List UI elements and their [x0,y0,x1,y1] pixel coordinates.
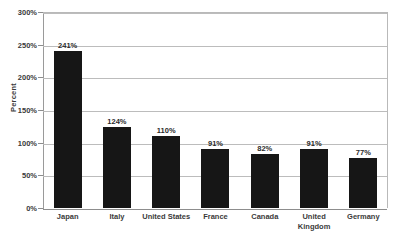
x-axis-category-label: United States [142,212,191,222]
bar-slot: 91% [191,13,240,208]
bar[interactable] [54,51,82,208]
bar[interactable] [349,158,377,208]
x-axis-labels: JapanItalyUnited StatesFranceCanadaUnite… [43,212,388,250]
x-axis-category-label: Italy [92,212,141,222]
x-axis-category-label: Canada [240,212,289,222]
bar[interactable] [152,136,180,208]
bar[interactable] [251,154,279,208]
y-tick-mark [38,208,43,209]
bar-value-label: 77% [356,148,371,157]
y-tick-mark [38,110,43,111]
bar-value-label: 82% [257,144,272,153]
y-tick-label: 200% [0,73,37,82]
y-tick-mark [38,175,43,176]
bar-value-label: 110% [157,126,176,135]
y-tick-label: 0% [0,204,37,213]
bar-slot: 91% [289,13,338,208]
bar-chart: Percent 241%124%110%91%82%91%77% 0%50%10… [0,0,400,250]
x-axis-category-label: Germany [339,212,388,222]
bar-value-label: 91% [208,139,223,148]
y-tick-label: 300% [0,8,37,17]
bar[interactable] [300,149,328,208]
bar-slot: 241% [43,13,92,208]
plot-area: 241%124%110%91%82%91%77% [43,12,388,208]
y-tick-label: 250% [0,40,37,49]
y-tick-mark [38,77,43,78]
bar-value-label: 91% [307,139,322,148]
bar-slot: 82% [240,13,289,208]
bars-layer: 241%124%110%91%82%91%77% [43,13,387,208]
x-axis-category-label: Japan [43,212,92,222]
y-tick-mark [38,143,43,144]
bar-value-label: 124% [107,117,126,126]
bar-slot: 110% [142,13,191,208]
x-axis-category-label: France [191,212,240,222]
y-tick-mark [38,45,43,46]
bar-slot: 77% [339,13,388,208]
y-tick-label: 50% [0,171,37,180]
bar[interactable] [103,127,131,208]
bar-slot: 124% [92,13,141,208]
gridline [43,209,387,210]
x-axis-category-label: UnitedKingdom [289,212,338,232]
y-tick-mark [38,12,43,13]
bar[interactable] [201,149,229,208]
y-tick-label: 100% [0,138,37,147]
y-tick-label: 150% [0,106,37,115]
bar-value-label: 241% [58,41,77,50]
